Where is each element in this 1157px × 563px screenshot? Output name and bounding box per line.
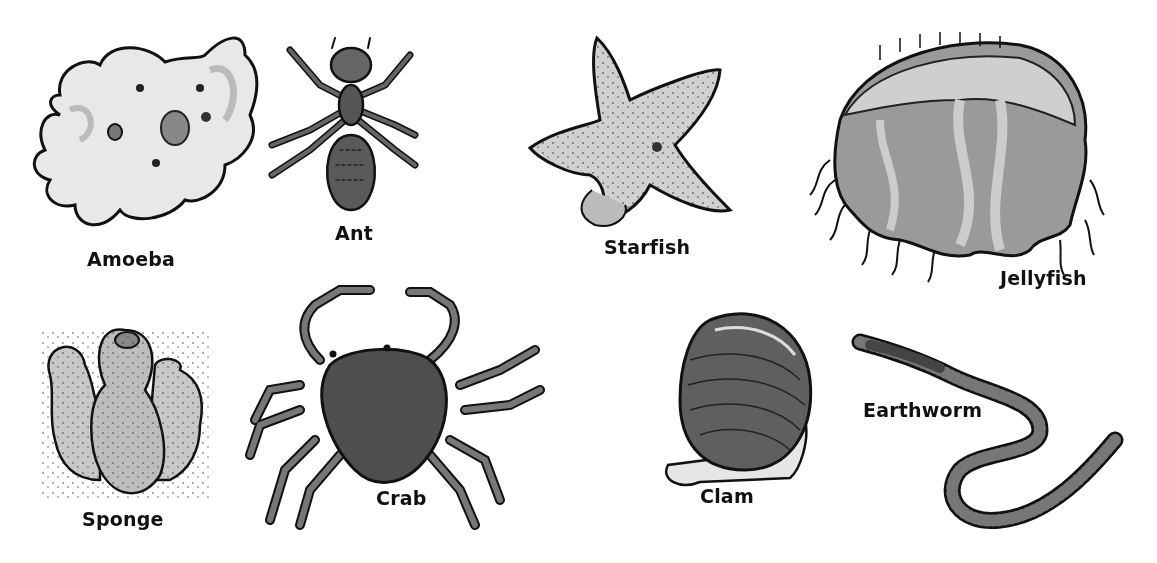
ant-illustration xyxy=(272,38,415,210)
label-starfish: Starfish xyxy=(604,236,690,258)
jellyfish-illustration xyxy=(810,32,1104,282)
label-ant: Ant xyxy=(335,222,373,244)
organism-illustrations xyxy=(0,0,1157,563)
label-jellyfish: Jellyfish xyxy=(1000,267,1087,289)
sponge-illustration xyxy=(40,320,215,500)
label-sponge: Sponge xyxy=(82,508,164,530)
earthworm-illustration xyxy=(860,342,1115,521)
starfish-illustration xyxy=(520,30,750,230)
label-crab: Crab xyxy=(376,487,427,509)
label-amoeba: Amoeba xyxy=(87,248,175,270)
label-earthworm: Earthworm xyxy=(863,399,982,421)
clam-illustration xyxy=(666,314,810,485)
label-clam: Clam xyxy=(700,485,754,507)
amoeba-illustration xyxy=(34,38,257,225)
